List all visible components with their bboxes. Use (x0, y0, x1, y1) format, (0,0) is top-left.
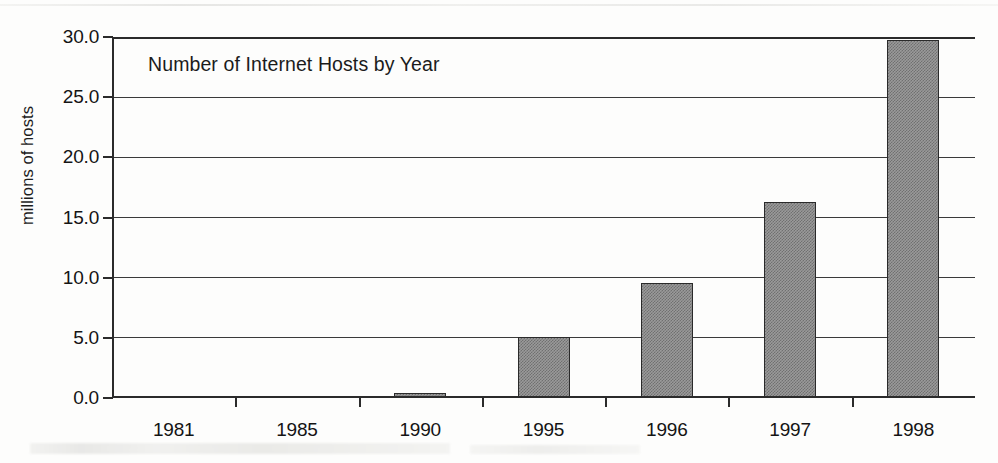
y-axis-title: millions of hosts (18, 81, 37, 251)
gridline (112, 277, 975, 278)
y-axis-tick-label: 5.0 (73, 326, 99, 348)
x-axis-tick (728, 398, 730, 407)
x-axis-tick (359, 398, 361, 407)
bar-1997 (764, 202, 816, 397)
y-axis-tick-label: 10.0 (63, 266, 99, 288)
x-axis-tick-label: 1995 (523, 419, 564, 441)
x-axis-tick-label: 1998 (893, 419, 934, 441)
x-axis-tick (482, 398, 484, 407)
y-axis-tick-label: 20.0 (63, 146, 99, 168)
plot-area: Number of Internet Hosts by Year 0.05.01… (112, 37, 975, 398)
x-axis-tick-label: 1981 (153, 419, 194, 441)
bar-1995 (518, 337, 570, 397)
gridline (112, 217, 975, 218)
gridline (112, 97, 975, 98)
chart-title: Number of Internet Hosts by Year (148, 53, 440, 76)
scan-artifact-top (0, 4, 998, 6)
gridline (112, 157, 975, 158)
bar-1998 (887, 40, 939, 397)
x-axis-tick (852, 398, 854, 407)
x-axis-tick (605, 398, 607, 407)
x-axis-tick-label: 1997 (769, 419, 810, 441)
y-axis-tick-label: 30.0 (63, 26, 99, 48)
chart-figure: millions of hosts Number of Internet Hos… (0, 0, 998, 463)
x-axis-tick-label: 1990 (399, 419, 440, 441)
scan-artifact-bottom (30, 443, 450, 454)
y-axis-tick-label: 15.0 (63, 206, 99, 228)
bar-1996 (641, 283, 693, 397)
y-axis-tick-label: 0.0 (73, 387, 99, 409)
x-axis-tick (235, 398, 237, 407)
x-axis-tick-label: 1996 (646, 419, 687, 441)
x-axis-tick-label: 1985 (276, 419, 317, 441)
y-axis-tick-label: 25.0 (63, 86, 99, 108)
scan-artifact-bottom-right (470, 445, 640, 454)
gridline (112, 37, 975, 39)
y-axis-line (112, 37, 114, 398)
x-axis-line (112, 396, 975, 398)
